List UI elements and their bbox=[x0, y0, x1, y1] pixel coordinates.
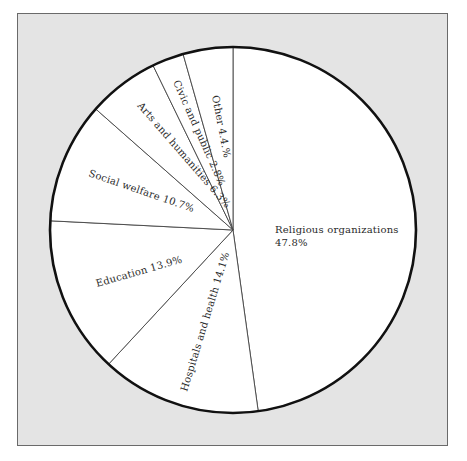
label-religious-value: 47.8% bbox=[275, 237, 308, 248]
pie-chart: Religious organizations 47.8% Hospitals … bbox=[0, 0, 467, 461]
label-religious: Religious organizations bbox=[275, 224, 399, 235]
